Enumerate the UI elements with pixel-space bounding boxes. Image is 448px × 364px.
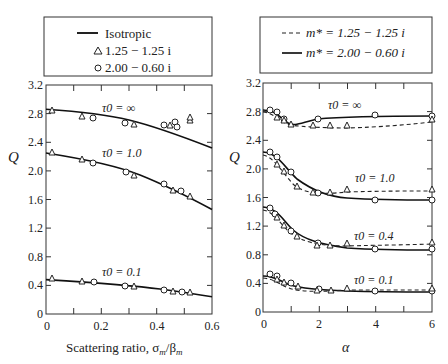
svg-text:τ0 = 0.4: τ0 = 0.4 [354, 229, 393, 243]
right-chart: m* = 1.25 − 1.25 i m* = 2.00 − 0.60 i 0 [229, 17, 435, 355]
svg-text:2.8: 2.8 [28, 107, 43, 121]
svg-text:τ0 = 0.1: τ0 = 0.1 [102, 265, 141, 279]
right-triangle-markers [274, 114, 435, 293]
svg-text:1.2: 1.2 [246, 219, 261, 233]
svg-text:τ0 = ∞: τ0 = ∞ [102, 101, 135, 115]
right-legend: m* = 1.25 − 1.25 i m* = 2.00 − 0.60 i [260, 17, 432, 73]
svg-text:2.0: 2.0 [28, 164, 43, 178]
legend-dashed: m* = 1.25 − 1.25 i [306, 25, 405, 40]
triangle-marker-icon [94, 47, 102, 54]
svg-text:4: 4 [373, 317, 379, 331]
svg-text:τ0 = 0.1: τ0 = 0.1 [354, 273, 393, 287]
left-legend: Isotropic 1.25 − 1.25 i 2.00 − 0.60 i [44, 17, 212, 76]
svg-text:6: 6 [429, 317, 435, 331]
svg-text:0.4: 0.4 [150, 319, 165, 333]
svg-text:1.6: 1.6 [246, 191, 261, 205]
svg-text:1.6: 1.6 [28, 193, 43, 207]
left-x-axis-label: Scattering ratio, σm/βm [66, 340, 183, 357]
svg-text:2: 2 [316, 317, 322, 331]
svg-text:τ0 = 1.0: τ0 = 1.0 [102, 146, 141, 160]
right-curve-labels: τ0 = ∞ τ0 = 1.0 τ0 = 0.4 τ0 = 0.1 [328, 98, 394, 287]
svg-text:0.4: 0.4 [246, 276, 261, 290]
svg-text:3.2: 3.2 [246, 76, 261, 90]
legend-triangle: 1.25 − 1.25 i [105, 43, 172, 58]
figure: Isotropic 1.25 − 1.25 i 2.00 − 0.60 i [0, 0, 448, 364]
svg-text:0: 0 [44, 319, 50, 333]
legend-circle: 2.00 − 0.60 i [105, 60, 172, 75]
left-x-tick-labels: 0 0.2 0.4 0.6 [44, 319, 220, 333]
svg-text:3.2: 3.2 [28, 78, 43, 92]
svg-text:0.6: 0.6 [205, 319, 220, 333]
right-y-axis-label: Q [229, 149, 240, 165]
svg-text:0: 0 [261, 317, 267, 331]
svg-text:2.4: 2.4 [246, 133, 261, 147]
svg-text:0.2: 0.2 [94, 319, 109, 333]
legend-isotropic: Isotropic [105, 26, 151, 41]
right-solid-curves [263, 110, 432, 292]
right-x-tick-labels: 0 2 4 6 [261, 317, 435, 331]
svg-text:0.4: 0.4 [28, 278, 43, 292]
svg-text:2.0: 2.0 [246, 162, 261, 176]
svg-text:τ0 = ∞: τ0 = ∞ [328, 98, 361, 112]
left-chart: Isotropic 1.25 − 1.25 i 2.00 − 0.60 i [8, 17, 220, 357]
svg-text:2.8: 2.8 [246, 105, 261, 119]
svg-text:0: 0 [37, 307, 43, 321]
svg-text:0.8: 0.8 [28, 250, 43, 264]
svg-text:0.8: 0.8 [246, 248, 261, 262]
svg-text:2.4: 2.4 [28, 135, 43, 149]
right-x-axis-label: α [342, 340, 350, 355]
svg-text:τ0 = 1.0: τ0 = 1.0 [355, 171, 394, 185]
left-y-axis-label: Q [8, 149, 19, 165]
right-dashed-curves [263, 112, 432, 291]
left-y-tick-labels: 0 0.4 0.8 1.2 1.6 2.0 2.4 2.8 3.2 [28, 78, 43, 321]
circle-marker-icon [95, 65, 101, 71]
legend-solid: m* = 2.00 − 0.60 i [306, 45, 405, 60]
svg-text:1.2: 1.2 [28, 221, 43, 235]
left-curve-labels: τ0 = ∞ τ0 = 1.0 τ0 = 0.1 [102, 101, 141, 279]
right-y-tick-labels: 0 0.4 0.8 1.2 1.6 2.0 2.4 2.8 3.2 [246, 76, 261, 319]
